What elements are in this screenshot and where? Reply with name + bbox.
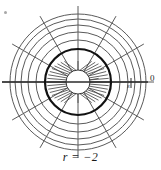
inner-spoke-350 [90,84,109,86]
inner-spoke-190 [47,84,66,86]
polar-grid-diagram [0,0,161,170]
inner-spoke-170 [47,78,66,80]
axis-minor-label: s [127,83,130,90]
axis-zero-label: 0 [150,74,155,83]
figure-caption: r = −2 [0,150,161,165]
polar-grid-figure: 0 s r = −2 [0,0,161,170]
